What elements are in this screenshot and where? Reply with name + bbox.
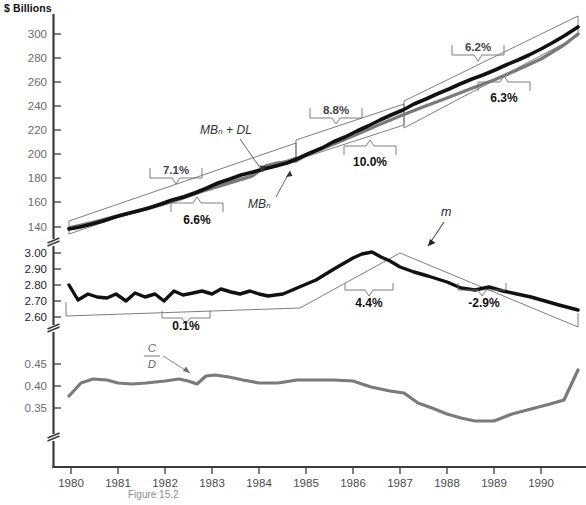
growth-label: 4.4% bbox=[355, 296, 383, 310]
series-callout-c-over-d: C D bbox=[144, 342, 190, 373]
growth-label: 7.1% bbox=[163, 164, 189, 176]
x-tick-label: 1985 bbox=[293, 477, 319, 489]
y-tick-label: 2.80 bbox=[25, 279, 47, 291]
y-tick-label: 2.90 bbox=[25, 263, 47, 275]
x-tick-label: 1990 bbox=[528, 477, 554, 489]
y-tick-label: 220 bbox=[28, 124, 47, 136]
series-label-d-denominator: D bbox=[148, 358, 156, 370]
y-tick-label: 140 bbox=[28, 221, 47, 233]
x-tick-label: 1984 bbox=[246, 477, 272, 489]
growth-label: -2.9% bbox=[468, 296, 500, 310]
axis-break-3 bbox=[48, 433, 60, 441]
series-label-m: m bbox=[441, 205, 451, 219]
growth-label: 0.1% bbox=[172, 319, 200, 333]
growth-label: 8.8% bbox=[323, 104, 349, 116]
series-label-c-numerator: C bbox=[148, 342, 157, 354]
axis-break-2 bbox=[48, 324, 60, 332]
growth-label: 6.3% bbox=[490, 91, 518, 105]
growth-label: 6.2% bbox=[465, 41, 491, 53]
axis-break-1 bbox=[48, 238, 60, 246]
y-tick-label: 280 bbox=[28, 52, 47, 64]
series-c-over-d-line bbox=[69, 370, 578, 421]
growth-label: 10.0% bbox=[353, 155, 387, 169]
series-callout-m: m bbox=[428, 205, 451, 246]
y-tick-label: 240 bbox=[28, 100, 47, 112]
y-tick-label: 3.00 bbox=[25, 247, 47, 259]
y-tick-label: 260 bbox=[28, 76, 47, 88]
y-tick-label: 0.45 bbox=[25, 358, 47, 370]
x-tick-label: 1981 bbox=[105, 477, 131, 489]
series-mb-n-plus-dl-line bbox=[69, 27, 578, 229]
mid-panel-growth-labels: 0.1% 4.4% -2.9% bbox=[172, 296, 500, 333]
series-m-line bbox=[69, 252, 578, 310]
y-ticks-top: 300 280 260 240 220 200 180 160 140 bbox=[28, 28, 61, 233]
y-tick-label: 200 bbox=[28, 148, 47, 160]
economic-line-chart: 300 280 260 240 220 200 180 160 140 3.00… bbox=[0, 0, 586, 505]
series-label-mb-dl: MBₙ + DL bbox=[200, 123, 252, 137]
x-tick-label: 1983 bbox=[199, 477, 225, 489]
top-panel-brackets-lower bbox=[171, 76, 530, 212]
y-tick-label: 0.35 bbox=[25, 402, 47, 414]
series-label-mb: MBₙ bbox=[248, 197, 271, 211]
y-ticks-bottom: 0.45 0.40 0.35 bbox=[25, 358, 61, 414]
x-tick-label: 1987 bbox=[387, 477, 413, 489]
y-ticks-mid: 3.00 2.90 2.80 2.70 2.60 bbox=[25, 247, 61, 323]
growth-label: 6.6% bbox=[183, 213, 211, 227]
y-tick-label: 2.60 bbox=[25, 311, 47, 323]
y-tick-label: 0.40 bbox=[25, 380, 47, 392]
series-callout-mb: MBₙ bbox=[248, 171, 293, 211]
x-tick-label: 1988 bbox=[434, 477, 460, 489]
x-ticks: 1980 1981 1982 1983 1984 1985 1986 1987 … bbox=[58, 467, 554, 489]
top-panel-trend-bands bbox=[69, 16, 578, 234]
y-tick-label: 160 bbox=[28, 196, 47, 208]
x-tick-label: 1982 bbox=[152, 477, 178, 489]
y-tick-label: 300 bbox=[28, 28, 47, 40]
y-tick-label: 2.70 bbox=[25, 295, 47, 307]
axis-group bbox=[53, 14, 586, 468]
x-tick-label: 1986 bbox=[340, 477, 366, 489]
y-tick-label: 180 bbox=[28, 172, 47, 184]
x-tick-label: 1989 bbox=[481, 477, 507, 489]
x-tick-label: 1980 bbox=[58, 477, 84, 489]
